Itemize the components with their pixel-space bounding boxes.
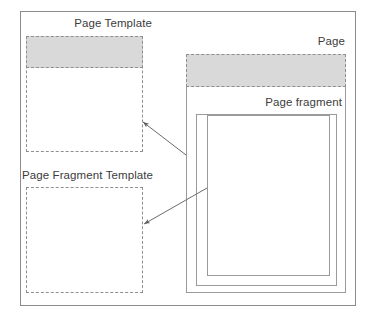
page-header-band	[186, 54, 346, 87]
diagram-canvas: Page Template Page Fragment Template Pag…	[0, 0, 376, 324]
page-template-label: Page Template	[42, 17, 152, 30]
page-template-box	[26, 36, 143, 152]
page-fragment-inner-box	[207, 115, 330, 276]
page-fragment-template-box	[26, 187, 143, 293]
page-fragment-label: Page fragment	[198, 96, 342, 109]
page-template-header-band	[26, 36, 143, 68]
page-label: Page	[240, 35, 345, 48]
page-fragment-template-label: Page Fragment Template	[22, 169, 157, 182]
